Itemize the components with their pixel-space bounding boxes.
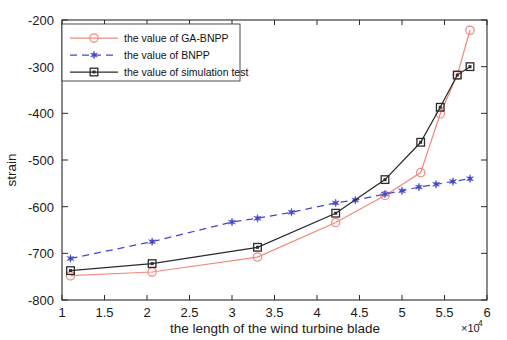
x-tick-label: 1.5 — [95, 305, 113, 320]
y-tick-label: -400 — [28, 106, 54, 121]
y-tick-label: -200 — [28, 13, 54, 28]
x-tick-label: 5.5 — [435, 305, 453, 320]
legend-label: the value of GA-BNPP — [124, 32, 228, 44]
y-tick-label: -300 — [28, 60, 54, 75]
x-axis-title: the length of the wind turbine blade — [170, 321, 380, 336]
y-tick-label: -700 — [28, 246, 54, 261]
y-tick-label: -800 — [28, 293, 54, 308]
x-axis-exponent-value: 4 — [478, 318, 483, 328]
data-series — [67, 175, 473, 263]
legend-label: the value of BNPP — [124, 49, 210, 61]
x-tick-label: 2.5 — [180, 305, 198, 320]
x-tick-label: 5 — [398, 305, 405, 320]
x-tick-label: 6 — [483, 305, 490, 320]
legend-label: the value of simulation test — [124, 66, 248, 78]
x-tick-label: 4.5 — [350, 305, 368, 320]
x-tick-label: 3.5 — [265, 305, 283, 320]
x-tick-label: 4 — [313, 305, 320, 320]
x-tick-label: 3 — [228, 305, 235, 320]
x-axis-exponent-multiplier: ×10 — [461, 322, 480, 334]
data-series — [67, 63, 474, 275]
y-axis-title: strain — [4, 153, 19, 186]
y-tick-label: -500 — [28, 153, 54, 168]
y-tick-label: -600 — [28, 200, 54, 215]
series-line — [71, 179, 471, 259]
series-line — [71, 67, 471, 271]
chart-figure: 11.522.533.544.555.56 -800-700-600-500-4… — [0, 0, 507, 340]
x-tick-label: 1 — [58, 305, 65, 320]
x-tick-label: 2 — [143, 305, 150, 320]
